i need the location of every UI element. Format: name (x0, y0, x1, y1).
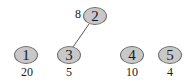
edge-3-to-2 (73, 24, 89, 47)
node-1-label: 1 (22, 48, 30, 63)
node-3-label: 3 (65, 48, 73, 63)
graph-diagram: 1 20 2 8 3 5 4 10 5 4 (0, 0, 192, 84)
node-3: 3 (57, 46, 81, 64)
node-1: 1 (14, 46, 38, 64)
node-5-weight: 4 (167, 66, 173, 78)
node-4: 4 (120, 46, 144, 64)
node-2: 2 (83, 7, 107, 25)
node-4-weight: 10 (126, 66, 138, 78)
node-5-label: 5 (166, 48, 174, 63)
node-5: 5 (158, 46, 182, 64)
node-3-weight: 5 (66, 66, 72, 78)
node-1-weight: 20 (21, 66, 33, 78)
node-2-weight: 8 (75, 8, 81, 20)
node-2-label: 2 (91, 9, 99, 24)
node-4-label: 4 (128, 48, 136, 63)
